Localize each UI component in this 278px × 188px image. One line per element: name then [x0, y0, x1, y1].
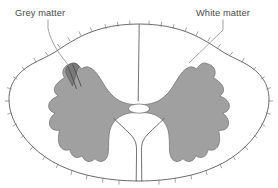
spinal-cord-diagram: Grey matter White matter: [0, 0, 278, 188]
white-matter-label: White matter: [196, 8, 250, 18]
grey-matter-label: Grey matter: [15, 8, 65, 18]
central-canal: [129, 104, 150, 113]
diagram-canvas: Grey matter White matter: [0, 0, 278, 188]
